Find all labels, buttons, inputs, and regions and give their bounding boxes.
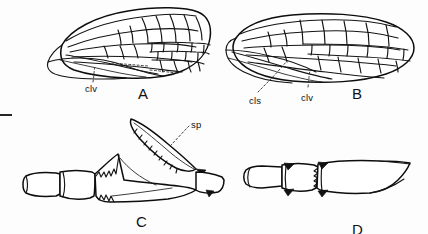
panel-c-sp-leader [170, 126, 189, 146]
panel-d-leg [244, 161, 410, 197]
panel-label-a: A [138, 86, 149, 101]
figure-plate: clv A cls clv B sp C D [0, 0, 428, 234]
panel-label-c: C [136, 214, 147, 229]
scale-bar [0, 114, 12, 116]
panel-c-leg [23, 119, 224, 202]
label-clv-panel-a: clv [85, 84, 97, 94]
panel-b-wing [226, 14, 414, 92]
label-cls-panel-b: cls [249, 96, 261, 106]
label-sp-panel-c: sp [191, 120, 201, 130]
label-clv-panel-b: clv [301, 93, 313, 103]
panel-a-wing [47, 8, 210, 82]
panel-label-d: D [352, 222, 363, 234]
panel-label-b: B [352, 86, 363, 101]
figure-linework [0, 0, 428, 234]
